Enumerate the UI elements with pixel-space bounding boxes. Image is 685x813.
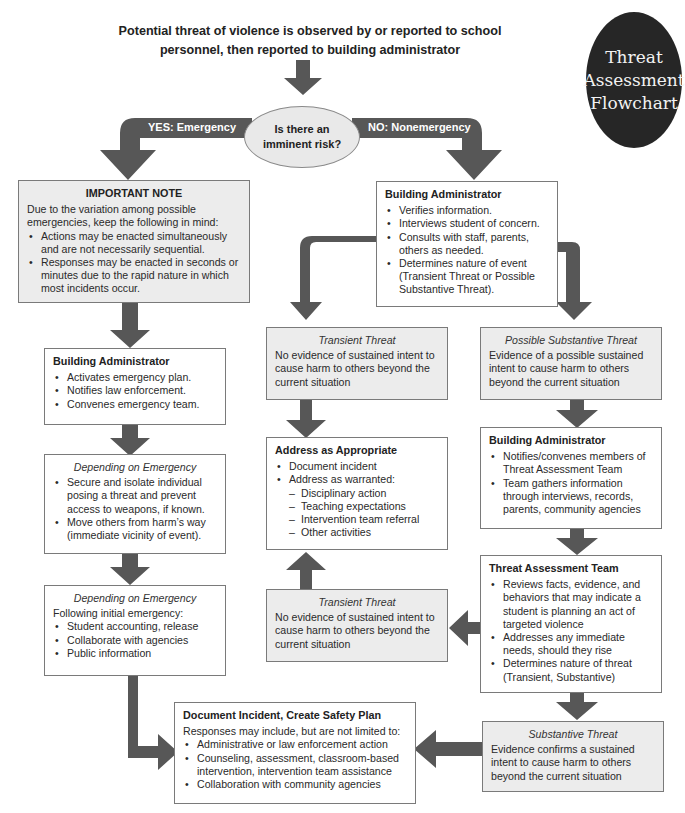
important-note-title: IMPORTANT NOTE bbox=[27, 187, 241, 200]
list-item: Notifies law enforcement. bbox=[53, 384, 217, 397]
flow-start-text: Potential threat of violence is observed… bbox=[110, 22, 510, 60]
list-item: Verifies information. bbox=[385, 204, 549, 217]
list-item: Actions may be enacted simultaneously an… bbox=[27, 230, 241, 256]
address-appropriate-box: Address as Appropriate Document incident… bbox=[266, 437, 448, 550]
list-item: Consults with staff, parents, others as … bbox=[385, 231, 549, 257]
list-subitem: Other activities bbox=[289, 526, 439, 539]
depending-emergency-box-1: Depending on Emergency Secure and isolat… bbox=[44, 454, 226, 554]
important-note-box: IMPORTANT NOTE Due to the variation amon… bbox=[18, 180, 250, 303]
address-title: Address as Appropriate bbox=[275, 444, 439, 457]
substantive-text: Evidence confirms a sustained intent to … bbox=[491, 743, 655, 783]
transient-1-title: Transient Threat bbox=[275, 334, 439, 347]
arrow-transient2-to-address bbox=[286, 552, 326, 592]
list-item: Interviews student of concern. bbox=[385, 217, 549, 230]
list-item: Administrative or law enforcement action bbox=[183, 738, 407, 751]
transient-threat-box-2: Transient Threat No evidence of sustaine… bbox=[266, 589, 448, 662]
list-item: Activates emergency plan. bbox=[53, 371, 217, 384]
arrow-transient-to-address bbox=[286, 399, 326, 438]
possible-substantive-title: Possible Substantive Threat bbox=[489, 334, 653, 347]
transient-threat-box-1: Transient Threat No evidence of sustaine… bbox=[266, 327, 448, 400]
arrow-admin2-to-team bbox=[556, 528, 598, 555]
list-subitem: Disciplinary action bbox=[289, 487, 439, 500]
arrow-team-to-substantive bbox=[556, 692, 598, 720]
arrow-possible-to-admin2 bbox=[556, 400, 598, 428]
emergency-admin-box: Building Administrator Activates emergen… bbox=[44, 348, 226, 425]
list-subitem: Intervention team referral bbox=[289, 513, 439, 526]
badge-line-3: Flowchart bbox=[590, 92, 678, 115]
threat-team-title: Threat Assessment Team bbox=[489, 562, 653, 575]
emergency-admin-list: Activates emergency plan. Notifies law e… bbox=[53, 371, 217, 411]
transient-2-title: Transient Threat bbox=[275, 596, 439, 609]
arrow-team-to-transient2 bbox=[449, 610, 480, 646]
safety-plan-intro: Responses may include, but are not limit… bbox=[183, 725, 407, 738]
transient-1-text: No evidence of sustained intent to cause… bbox=[275, 349, 439, 389]
admin-2-list: Notifies/convenes members of Threat Asse… bbox=[489, 450, 653, 516]
arrow-depending2-to-safety bbox=[128, 676, 178, 770]
list-item: Determines nature of event (Transient Th… bbox=[385, 257, 549, 297]
safety-plan-title: Document Incident, Create Safety Plan bbox=[183, 709, 407, 722]
depending-2-title: Depending on Emergency bbox=[53, 592, 217, 605]
nonemergency-admin-title: Building Administrator bbox=[385, 188, 549, 201]
list-item: Student accounting, release bbox=[53, 620, 217, 633]
safety-plan-box: Document Incident, Create Safety Plan Re… bbox=[174, 702, 416, 804]
depending-1-list: Secure and isolate individual posing a t… bbox=[53, 476, 217, 542]
depending-emergency-box-2: Depending on Emergency Following initial… bbox=[44, 585, 226, 676]
important-note-intro: Due to the variation among possible emer… bbox=[27, 203, 241, 229]
list-item: Team gathers information through intervi… bbox=[489, 477, 653, 517]
title-badge: Threat Assessment Flowchart bbox=[586, 12, 682, 148]
list-item: Document incident bbox=[275, 460, 439, 473]
badge-line-2: Assessment bbox=[583, 69, 684, 92]
substantive-threat-box: Substantive Threat Evidence confirms a s… bbox=[482, 721, 664, 792]
arrow-substantive-to-safety bbox=[414, 730, 482, 768]
depending-1-title: Depending on Emergency bbox=[53, 461, 217, 474]
list-item: Collaboration with community agencies bbox=[183, 778, 407, 791]
arrow-note-to-admin bbox=[110, 302, 150, 348]
important-note-list: Actions may be enacted simultaneously an… bbox=[27, 230, 241, 296]
admin-2-title: Building Administrator bbox=[489, 434, 653, 447]
list-item: Convenes emergency team. bbox=[53, 398, 217, 411]
address-list: Document incident Address as warranted: bbox=[275, 460, 439, 486]
list-item: Counseling, assessment, classroom-based … bbox=[183, 752, 407, 778]
nonemergency-admin-box-2: Building Administrator Notifies/convenes… bbox=[480, 427, 662, 529]
list-item: Move others from harm’s way (immediate v… bbox=[53, 516, 217, 542]
arrow-depending1-to-depending2 bbox=[110, 553, 150, 585]
list-item: Secure and isolate individual posing a t… bbox=[53, 476, 217, 516]
list-item: Reviews facts, evidence, and behaviors t… bbox=[489, 578, 653, 631]
list-item: Public information bbox=[53, 647, 217, 660]
no-branch-label: NO: Nonemergency bbox=[368, 121, 471, 133]
decision-node: Is there an imminent risk? bbox=[244, 106, 360, 168]
list-item: Collaborate with agencies bbox=[53, 634, 217, 647]
possible-substantive-text: Evidence of a possible sustained intent … bbox=[489, 349, 653, 389]
address-sublist: Disciplinary action Teaching expectation… bbox=[275, 487, 439, 540]
depending-2-intro: Following initial emergency: bbox=[53, 607, 217, 620]
arrow-admin-to-transient bbox=[290, 236, 376, 320]
badge-line-1: Threat bbox=[605, 46, 662, 69]
threat-team-list: Reviews facts, evidence, and behaviors t… bbox=[489, 578, 653, 684]
safety-plan-list: Administrative or law enforcement action… bbox=[183, 738, 407, 791]
list-item: Addresses any immediate needs, should th… bbox=[489, 631, 653, 657]
list-item: Determines nature of threat (Transient, … bbox=[489, 657, 653, 683]
arrow-admin-to-depending1 bbox=[110, 424, 150, 456]
list-item: Responses may be enacted in seconds or m… bbox=[27, 256, 241, 296]
depending-2-list: Student accounting, release Collaborate … bbox=[53, 620, 217, 660]
threat-team-box: Threat Assessment Team Reviews facts, ev… bbox=[480, 555, 662, 693]
emergency-admin-title: Building Administrator bbox=[53, 355, 217, 368]
yes-branch-label: YES: Emergency bbox=[148, 121, 236, 133]
list-item: Notifies/convenes members of Threat Asse… bbox=[489, 450, 653, 476]
decision-question: Is there an imminent risk? bbox=[262, 122, 342, 152]
nonemergency-admin-list: Verifies information. Interviews student… bbox=[385, 204, 549, 296]
list-subitem: Teaching expectations bbox=[289, 500, 439, 513]
transient-2-text: No evidence of sustained intent to cause… bbox=[275, 611, 439, 651]
list-item: Address as warranted: bbox=[275, 473, 439, 486]
arrow-admin-to-possible bbox=[556, 242, 592, 320]
nonemergency-admin-box: Building Administrator Verifies informat… bbox=[376, 181, 558, 307]
substantive-title: Substantive Threat bbox=[491, 728, 655, 741]
possible-substantive-box: Possible Substantive Threat Evidence of … bbox=[480, 327, 662, 400]
arrow-top bbox=[284, 60, 322, 95]
